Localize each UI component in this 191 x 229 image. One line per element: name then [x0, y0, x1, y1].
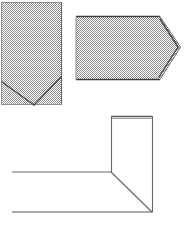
- figure-1-body: [2, 3, 62, 105]
- figure-1-filled-rectangle-with-v-fold: [1, 2, 62, 105]
- figure-3-outline-corner-fold-assembly: [12, 116, 153, 213]
- figure-2-filled-pentagon-arrow-right: [76, 16, 181, 80]
- drawing-canvas: [0, 0, 191, 229]
- figure-3-vertical-panel: [112, 117, 153, 213]
- figure-sheet: [0, 0, 191, 229]
